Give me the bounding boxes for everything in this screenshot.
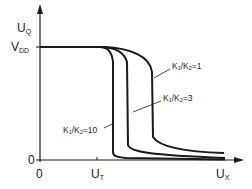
ut-label: UT [91, 168, 104, 181]
x-zero-label: 0 [36, 168, 43, 180]
transfer-characteristic-diagram [0, 0, 252, 189]
curve-label-k3: K1/K2=3 [163, 94, 193, 104]
x-axis-arrow-icon [234, 157, 244, 163]
curve-label-k1: K1/K2=1 [172, 62, 202, 72]
curve-label-k10: K1/K2=10 [63, 126, 97, 136]
y-axis-label: UQ [17, 22, 31, 35]
y-zero-label: 0 [28, 154, 35, 166]
x-axis-label: UX [216, 168, 229, 181]
leader-k1 [154, 69, 170, 78]
y-axis-arrow-icon [37, 4, 43, 14]
leader-k3 [133, 101, 161, 112]
leader-k10 [104, 124, 112, 128]
vdd-label: VDD [11, 41, 29, 54]
